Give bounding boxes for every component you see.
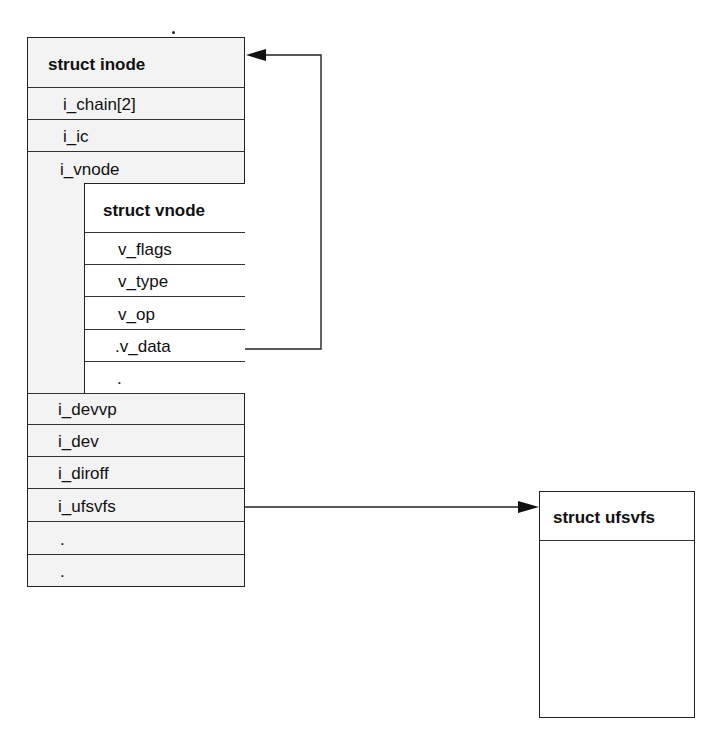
stray-dot: [172, 31, 175, 34]
inode-field-row: i_devvp: [28, 393, 244, 425]
field-v-flags: v_flags: [118, 241, 172, 258]
inode-field-row: i_vnode: [28, 152, 244, 184]
vnode-title: struct vnode: [103, 202, 205, 219]
arrowhead-icon: [518, 501, 539, 513]
inode-title: struct inode: [48, 56, 145, 73]
field-i-dev: i_dev: [58, 433, 99, 450]
v-data-to-inode-arrow: [245, 55, 321, 349]
inode-field-row: i_ufsvfs: [28, 489, 244, 522]
vnode-field-row: v_op: [85, 297, 245, 330]
field-i-ufsvfs: i_ufsvfs: [58, 498, 116, 515]
vnode-field-row: v_flags: [85, 233, 245, 265]
field-i-devvp: i_devvp: [58, 401, 117, 418]
ufsvfs-header: struct ufsvfs: [540, 492, 694, 541]
field-i-vnode: i_vnode: [60, 161, 120, 178]
vnode-field-row: .v_data: [85, 330, 245, 362]
field-i-diroff: i_diroff: [58, 465, 109, 482]
field-v-op: v_op: [118, 306, 155, 323]
field-ellipsis: .: [117, 370, 122, 387]
inode-header: struct inode: [28, 38, 244, 88]
field-ellipsis: .: [60, 563, 65, 580]
field-v-type: v_type: [118, 273, 168, 290]
ufsvfs-struct-box: struct ufsvfs: [539, 491, 695, 718]
arrowhead-icon: [246, 49, 266, 61]
inode-field-row: .: [28, 522, 244, 555]
inode-field-row: i_ic: [28, 120, 244, 152]
inode-field-row: i_dev: [28, 425, 244, 457]
vnode-field-row: .: [85, 362, 245, 393]
inode-field-row: i_chain[2]: [28, 88, 244, 120]
inode-field-row: i_diroff: [28, 457, 244, 489]
vnode-struct-box: struct vnode v_flags v_type v_op .v_data…: [84, 183, 245, 393]
vnode-header: struct vnode: [85, 184, 245, 233]
vnode-field-row: v_type: [85, 265, 245, 297]
ufsvfs-title: struct ufsvfs: [553, 509, 655, 526]
field-ellipsis: .: [60, 531, 65, 548]
inode-field-row: .: [28, 555, 244, 586]
field-i-ic: i_ic: [63, 128, 89, 145]
field-v-data: .v_data: [115, 338, 171, 355]
field-i-chain: i_chain[2]: [63, 96, 136, 113]
